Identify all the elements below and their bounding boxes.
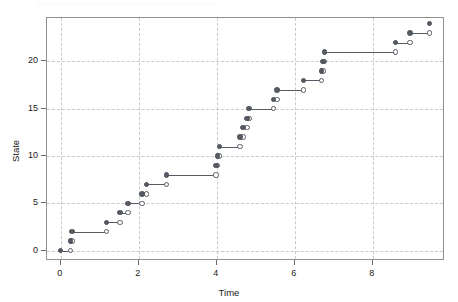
top-artifact-band [36, 2, 216, 7]
interval-end-marker [164, 182, 169, 187]
gridline-horizontal [47, 109, 443, 110]
interval-start-marker [213, 163, 218, 168]
gridline-horizontal [47, 61, 443, 62]
interval-end-marker [144, 191, 149, 196]
interval-start-marker [271, 97, 276, 102]
interval-start-marker [117, 210, 122, 215]
interval-end-marker [271, 106, 276, 111]
step-segment [277, 90, 304, 91]
interval-start-marker [244, 116, 249, 121]
x-tick-mark [60, 260, 61, 265]
x-tick-label: 6 [291, 268, 296, 278]
gridline-vertical [61, 18, 62, 259]
interval-start-marker [68, 238, 73, 243]
x-tick-mark [138, 260, 139, 265]
y-tick-label: 0 [16, 245, 38, 255]
interval-end-marker [139, 201, 144, 206]
x-axis-title: Time [0, 287, 458, 298]
interval-end-marker [319, 78, 324, 83]
interval-start-marker [427, 21, 432, 26]
y-axis-title: State [10, 140, 21, 162]
interval-end-marker [68, 248, 73, 253]
step-segment [249, 109, 273, 110]
interval-start-marker [407, 30, 412, 35]
interval-start-marker [217, 144, 222, 149]
step-segment [167, 175, 216, 176]
interval-end-marker [104, 229, 109, 234]
gridline-horizontal [47, 156, 443, 157]
interval-end-marker [301, 87, 306, 92]
interval-end-marker [125, 210, 130, 215]
y-tick-label: 20 [16, 55, 38, 65]
interval-start-marker [164, 172, 169, 177]
interval-end-marker [427, 30, 432, 35]
y-tick-mark [41, 60, 46, 61]
interval-end-marker [117, 220, 122, 225]
interval-start-marker [322, 49, 327, 54]
interval-start-marker [139, 191, 144, 196]
interval-end-marker [407, 40, 412, 45]
x-tick-label: 0 [57, 268, 62, 278]
interval-start-marker [246, 106, 251, 111]
interval-start-marker [320, 59, 325, 64]
y-tick-mark [41, 202, 46, 203]
y-tick-mark [41, 155, 46, 156]
interval-start-marker [69, 229, 74, 234]
gridline-vertical [217, 18, 218, 259]
gridline-vertical [139, 18, 140, 259]
interval-start-marker [237, 134, 242, 139]
interval-start-marker [144, 182, 149, 187]
x-tick-label: 4 [213, 268, 218, 278]
x-tick-mark [294, 260, 295, 265]
interval-end-marker [237, 144, 242, 149]
interval-start-marker [240, 125, 245, 130]
gridline-vertical [373, 18, 374, 259]
interval-end-marker [213, 172, 218, 177]
interval-start-marker [319, 68, 324, 73]
plot-area [46, 17, 444, 260]
x-tick-mark [216, 260, 217, 265]
step-function-chart: 02468 05101520 Time State [0, 0, 458, 302]
x-tick-label: 8 [369, 268, 374, 278]
interval-start-marker [274, 87, 279, 92]
interval-start-marker [125, 201, 130, 206]
y-tick-label: 5 [16, 197, 38, 207]
gridline-horizontal [47, 251, 443, 252]
x-tick-label: 2 [135, 268, 140, 278]
gridline-vertical [295, 18, 296, 259]
interval-start-marker [301, 78, 306, 83]
interval-end-marker [393, 49, 398, 54]
interval-start-marker [215, 153, 220, 158]
step-segment [324, 52, 395, 53]
y-tick-label: 15 [16, 103, 38, 113]
step-segment [72, 232, 107, 233]
y-tick-mark [41, 108, 46, 109]
interval-start-marker [393, 40, 398, 45]
interval-start-marker [104, 220, 109, 225]
interval-start-marker [58, 248, 63, 253]
y-tick-mark [41, 250, 46, 251]
gridline-horizontal [47, 203, 443, 204]
x-tick-mark [372, 260, 373, 265]
